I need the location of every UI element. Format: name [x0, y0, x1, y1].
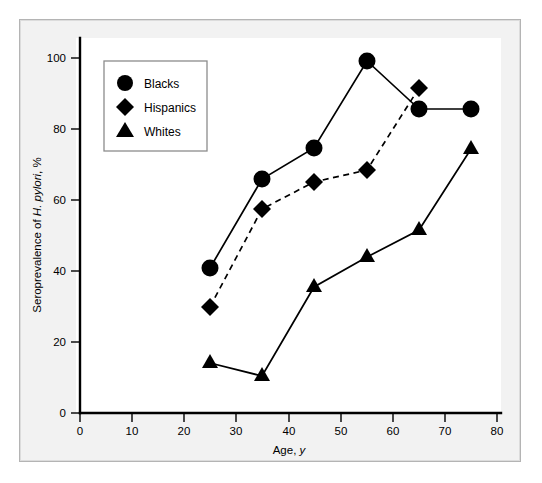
x-tick-label-80: 80	[491, 425, 504, 437]
marker-circle	[411, 101, 428, 118]
y-axis-title: Seroprevalence of H. pylori, %	[31, 157, 43, 312]
legend-item-blacks: Blacks	[117, 75, 179, 91]
x-tick-label-60: 60	[387, 425, 400, 437]
y-axis-title-italic: H. pylori	[31, 174, 43, 217]
legend-label-whites: Whites	[144, 125, 181, 139]
y-tick-label-100: 100	[47, 52, 66, 64]
x-tick-label-30: 30	[230, 425, 243, 437]
x-tick-label-10: 10	[126, 425, 139, 437]
legend-label-hispanics: Hispanics	[144, 101, 196, 115]
x-tick-label-20: 20	[178, 425, 191, 437]
y-tick-label-60: 60	[53, 194, 66, 206]
seroprevalence-line-chart: 100 80 60 40 20 0 0 10 20 30 40 50 60	[20, 20, 520, 461]
x-axis-title: Age, y	[273, 444, 307, 456]
y-axis-tick-labels: 100 80 60 40 20 0	[47, 52, 66, 419]
y-axis-title-plain: Seroprevalence of	[31, 216, 43, 313]
legend-label-blacks: Blacks	[144, 77, 179, 91]
x-axis-ticks	[80, 413, 497, 422]
y-tick-label-0: 0	[60, 407, 66, 419]
y-axis-title-tail: , %	[31, 157, 43, 174]
chart-legend: Blacks Hispanics Whites	[104, 61, 207, 151]
x-axis-tick-labels: 0 10 20 30 40 50 60 70 80	[77, 425, 504, 437]
x-tick-label-0: 0	[77, 425, 83, 437]
marker-circle	[202, 260, 219, 277]
marker-circle	[463, 101, 480, 118]
x-tick-label-70: 70	[439, 425, 452, 437]
legend-item-whites: Whites	[116, 122, 181, 139]
y-tick-label-20: 20	[53, 336, 66, 348]
legend-circle-icon	[117, 75, 133, 91]
x-axis-title-italic: y	[299, 444, 307, 456]
marker-circle	[306, 140, 323, 157]
x-tick-label-50: 50	[335, 425, 348, 437]
x-tick-label-40: 40	[283, 425, 296, 437]
y-tick-label-80: 80	[53, 123, 66, 135]
marker-circle	[359, 53, 376, 70]
y-tick-label-40: 40	[53, 265, 66, 277]
x-axis-title-plain: Age,	[273, 444, 300, 456]
marker-circle	[254, 171, 271, 188]
figure-frame: 100 80 60 40 20 0 0 10 20 30 40 50 60	[19, 19, 521, 462]
